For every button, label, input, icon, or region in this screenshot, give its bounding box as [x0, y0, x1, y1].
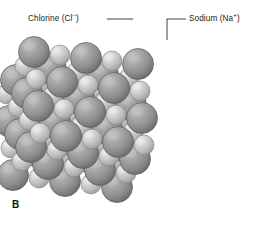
sphere-specular-highlight	[137, 138, 145, 144]
chloride-ion	[51, 121, 82, 152]
sphere-specular-highlight	[55, 126, 67, 135]
chloride-ion	[127, 103, 158, 134]
chloride-ion	[19, 37, 50, 68]
sphere-specular-highlight	[2, 165, 14, 174]
sphere-specular-highlight	[33, 126, 41, 132]
sphere-specular-highlight	[29, 72, 37, 78]
chloride-ion	[23, 91, 54, 122]
sphere-specular-highlight	[75, 48, 87, 57]
sodium-callout-label: Sodium (Na+)	[189, 14, 240, 23]
sphere-specular-highlight	[109, 108, 117, 114]
chloride-ion	[71, 43, 102, 74]
sodium-ion	[82, 129, 102, 149]
sphere-specular-highlight	[85, 132, 93, 138]
sphere-specular-highlight	[105, 54, 113, 60]
chlorine-callout-label: Chlorine (Cl–)	[28, 14, 79, 23]
chloride-ion	[75, 97, 106, 128]
sphere-specular-highlight	[127, 54, 139, 63]
sphere-specular-highlight	[81, 78, 89, 84]
sphere-specular-highlight	[107, 132, 119, 141]
sodium-ion	[102, 51, 122, 71]
sphere-specular-highlight	[5, 70, 17, 79]
sphere-specular-highlight	[23, 42, 35, 51]
callout-leader-lines	[107, 19, 186, 40]
sodium-ion	[130, 81, 150, 101]
panel-letter-label: B	[12, 199, 19, 210]
chlorine-label-close-paren: )	[76, 14, 79, 23]
sodium-ion	[134, 135, 154, 155]
sodium-ion	[50, 45, 70, 65]
sodium-ion	[106, 105, 126, 125]
sodium-ion	[78, 75, 98, 95]
sphere-specular-highlight	[131, 108, 143, 117]
sodium-label-close-paren: )	[237, 14, 240, 23]
sphere-specular-highlight	[27, 96, 39, 105]
sodium-label-text: Sodium (Na	[189, 14, 233, 23]
sodium-ion	[54, 99, 74, 119]
sphere-specular-highlight	[57, 102, 65, 108]
sodium-ion	[30, 123, 50, 143]
sphere-specular-highlight	[51, 72, 63, 81]
chloride-ion	[123, 49, 154, 80]
sphere-specular-highlight	[16, 83, 28, 92]
sphere-specular-highlight	[133, 84, 141, 90]
sphere-specular-highlight	[9, 124, 21, 133]
sphere-specular-highlight	[79, 102, 91, 111]
chloride-ion	[103, 127, 134, 158]
sodium-ion	[26, 69, 46, 89]
lattice-sphere-group	[0, 37, 158, 203]
chloride-ion	[99, 73, 130, 104]
nacl-crystal-figure: Chlorine (Cl–) Sodium (Na+) B	[0, 0, 260, 227]
sphere-specular-highlight	[20, 137, 32, 146]
sodium-leader-line	[167, 19, 186, 40]
sphere-specular-highlight	[53, 48, 61, 54]
chloride-ion	[47, 67, 78, 98]
crystal-lattice-illustration	[0, 0, 260, 227]
chlorine-label-text: Chlorine (Cl	[28, 14, 72, 23]
sphere-specular-highlight	[103, 78, 115, 87]
